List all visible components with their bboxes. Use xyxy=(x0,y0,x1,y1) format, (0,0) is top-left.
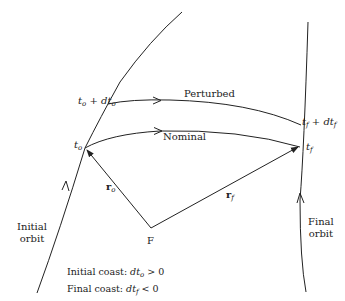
perturbed-label: Perturbed xyxy=(184,89,235,99)
perturbed-direction-arrow xyxy=(153,97,161,104)
caption: Initial coast: dto > 0 Final coast: dtf … xyxy=(67,265,164,299)
final-orbit-curve xyxy=(300,22,308,292)
t-o-label: to xyxy=(74,140,82,152)
r-f-vector xyxy=(151,147,298,228)
final-orbit-label: Final orbit xyxy=(308,216,334,240)
caption-initial-coast: Initial coast: dto > 0 xyxy=(67,265,164,282)
initial-orbit-label: Initial orbit xyxy=(17,221,47,245)
nominal-label: Nominal xyxy=(163,132,206,142)
caption-final-coast: Final coast: dtf < 0 xyxy=(67,282,164,299)
perturbed-trajectory xyxy=(108,100,301,125)
r-o-label: ro xyxy=(106,182,116,194)
t-f-plus-dt-f-label: tf + dtf xyxy=(302,117,336,129)
r-o-vector xyxy=(87,150,151,228)
t-o-plus-dt-o-label: to + dto xyxy=(78,96,116,108)
focus-label: F xyxy=(147,236,154,246)
initial-orbit-curve xyxy=(37,12,182,293)
r-f-label: rf xyxy=(226,190,234,202)
initial-orbit-direction-arrow xyxy=(62,181,69,191)
t-f-label: tf xyxy=(306,142,313,154)
orbit-transfer-diagram xyxy=(0,0,345,301)
